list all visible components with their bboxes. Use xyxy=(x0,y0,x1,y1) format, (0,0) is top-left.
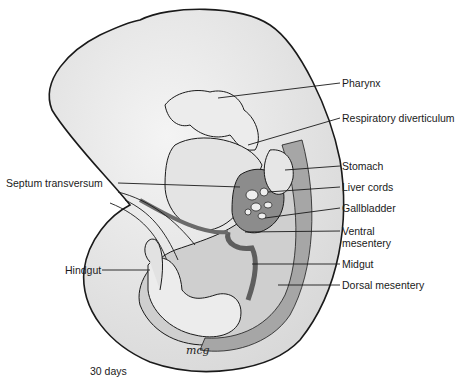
label-septum-transversum: Septum transversum xyxy=(6,177,103,189)
label-gallbladder: Gallbladder xyxy=(342,202,396,214)
artist-signature: mcg xyxy=(186,344,210,357)
label-pharynx: Pharynx xyxy=(342,77,381,89)
label-hindgut: Hindgut xyxy=(65,264,101,276)
label-ventral-mesentery-2: mesentery xyxy=(342,237,392,249)
embryo-diagram: Pharynx Respiratory diverticulum Stomach… xyxy=(0,0,458,385)
label-respiratory-diverticulum: Respiratory diverticulum xyxy=(342,112,455,124)
label-midgut: Midgut xyxy=(342,258,374,270)
caption-age: 30 days xyxy=(90,365,127,377)
label-dorsal-mesentery: Dorsal mesentery xyxy=(342,279,425,291)
label-ventral-mesentery-1: Ventral xyxy=(342,225,375,237)
label-liver-cords: Liver cords xyxy=(342,181,393,193)
embryo-illustration: Pharynx Respiratory diverticulum Stomach… xyxy=(0,0,458,385)
label-stomach: Stomach xyxy=(342,160,384,172)
